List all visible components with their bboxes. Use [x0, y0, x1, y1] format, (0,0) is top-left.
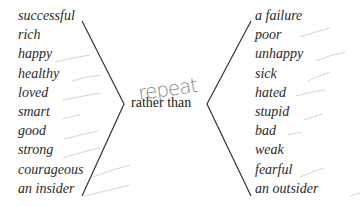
list-item: happy — [18, 44, 83, 63]
bracket-right — [207, 21, 251, 196]
list-item: strong — [18, 140, 83, 159]
list-item: rich — [18, 25, 83, 44]
list-item: an insider — [18, 179, 83, 198]
list-item: unhappy — [255, 44, 318, 63]
list-item: sick — [255, 64, 318, 83]
list-item: stupid — [255, 102, 318, 121]
center-label: rather than — [131, 95, 191, 111]
list-item: weak — [255, 140, 318, 159]
positive-word-list: successful rich happy healthy loved smar… — [18, 6, 83, 198]
list-item: courageous — [18, 160, 83, 179]
list-item: healthy — [18, 64, 83, 83]
bracket-left — [82, 21, 124, 196]
list-item: good — [18, 121, 83, 140]
list-item: loved — [18, 83, 83, 102]
list-item: successful — [18, 6, 83, 25]
list-item: hated — [255, 83, 318, 102]
list-item: poor — [255, 25, 318, 44]
negative-word-list: a failure poor unhappy sick hated stupid… — [255, 6, 318, 198]
list-item: a failure — [255, 6, 318, 25]
list-item: bad — [255, 121, 318, 140]
list-item: fearful — [255, 160, 318, 179]
list-item: an outsider — [255, 179, 318, 198]
list-item: smart — [18, 102, 83, 121]
